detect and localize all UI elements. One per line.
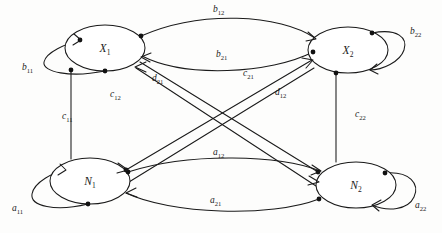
graph-canvas: X1 X2 N1 N2 — [0, 0, 442, 233]
endpoint-dot-a11-start — [86, 202, 91, 207]
node-N2[interactable]: N2 — [316, 162, 396, 208]
endpoint-dot-a22-start — [383, 171, 388, 176]
edge-label-a11: a11 — [12, 203, 23, 215]
node-N1[interactable]: N1 — [50, 158, 130, 204]
endpoint-dot-c22-top — [334, 71, 339, 76]
edge-b12 — [141, 18, 315, 38]
endpoint-dot-b21-target — [311, 50, 316, 55]
edge-label-a12: a12 — [213, 147, 224, 159]
edge-label-c21: c21 — [243, 68, 254, 80]
edge-d21 — [140, 62, 318, 172]
edge-group-verticals — [71, 70, 336, 162]
graph-diagram: X1 X2 N1 N2 — [0, 0, 442, 233]
endpoint-dot-b22-start — [370, 31, 375, 36]
edge-label-a22: a22 — [415, 200, 426, 212]
edge-group-curves — [126, 18, 320, 211]
endpoint-dot-b12-source — [139, 34, 144, 39]
endpoint-dot-b11-start — [103, 69, 108, 74]
edge-label-c12: c12 — [110, 89, 121, 101]
endpoint-dot-a21-source — [317, 197, 322, 202]
endpoint-dot-c11-top — [69, 68, 74, 73]
edge-d12 — [129, 68, 314, 182]
node-X1[interactable]: X1 — [65, 25, 145, 71]
edge-label-b12: b12 — [213, 4, 224, 16]
edge-label-b11: b11 — [22, 62, 33, 74]
edge-label-b22: b22 — [410, 26, 421, 38]
edge-a21 — [126, 193, 319, 211]
edge-label-a21: a21 — [210, 195, 221, 207]
edge-c12 — [136, 68, 316, 186]
edge-b21 — [142, 52, 313, 71]
node-X2[interactable]: X2 — [308, 27, 388, 73]
edge-label-d21: d21 — [152, 73, 163, 85]
edge-label-c22: c22 — [355, 109, 366, 121]
edge-label-b21: b21 — [216, 49, 227, 61]
